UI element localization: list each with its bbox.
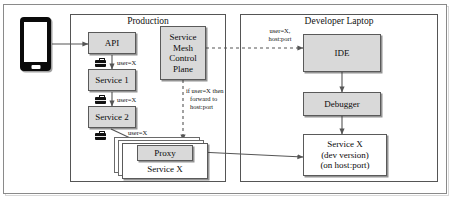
mesh-to-ide-line-1: user=X, xyxy=(256,27,304,35)
servicex-dev-line-1: Service X xyxy=(326,139,364,150)
node-servicex-label: Service X xyxy=(146,164,184,175)
rule-line-3: host:port xyxy=(186,103,230,111)
mesh-forward-rule: if user=X then forward to host:port xyxy=(186,87,230,111)
phone-screen xyxy=(24,22,47,62)
rule-line-1: if user=X then xyxy=(186,87,230,95)
edge-label-api-to-service1: user=X xyxy=(117,59,136,67)
phone-home-button xyxy=(31,65,40,69)
mesh-line-4: Plane xyxy=(172,64,194,75)
servicex-dev-line-2: (dev version) xyxy=(320,150,370,161)
rule-line-2: forward to xyxy=(186,95,230,103)
node-proxy-label: Proxy xyxy=(153,148,177,159)
node-ide[interactable]: IDE xyxy=(303,34,381,72)
node-servicex-dev[interactable]: Service X (dev version) (on host:port) xyxy=(303,134,387,176)
node-service2-label: Service 2 xyxy=(94,112,130,123)
node-debugger[interactable]: Debugger xyxy=(303,92,381,116)
node-service1-label: Service 1 xyxy=(94,75,130,86)
mesh-to-ide-label: user=X, host:port xyxy=(256,27,304,43)
diagram-canvas: Production Developer Laptop xyxy=(0,0,453,208)
node-api-label: API xyxy=(104,38,121,49)
mesh-line-1: Service xyxy=(169,32,198,43)
briefcase-icon-service2 xyxy=(95,131,106,140)
briefcase-icon-api xyxy=(95,58,106,67)
node-api[interactable]: API xyxy=(88,32,136,54)
group-developer-laptop-label: Developer Laptop xyxy=(240,16,438,27)
node-proxy[interactable]: Proxy xyxy=(137,145,193,161)
mesh-line-2: Mesh xyxy=(172,43,194,54)
node-service2[interactable]: Service 2 xyxy=(88,106,136,128)
phone-icon xyxy=(20,17,51,71)
briefcase-icon-service1 xyxy=(95,95,106,104)
mesh-to-ide-line-2: host:port xyxy=(256,35,304,43)
node-ide-label: IDE xyxy=(334,48,351,59)
edge-label-service1-to-service2: user=X xyxy=(117,96,136,104)
node-service1[interactable]: Service 1 xyxy=(88,69,136,91)
node-service-mesh-control-plane[interactable]: Service Mesh Control Plane xyxy=(160,26,206,80)
mesh-line-3: Control xyxy=(168,53,198,64)
node-debugger-label: Debugger xyxy=(323,99,361,110)
edge-label-service2-to-proxy: user=X xyxy=(128,129,147,137)
servicex-dev-line-3: (on host:port) xyxy=(319,160,370,171)
